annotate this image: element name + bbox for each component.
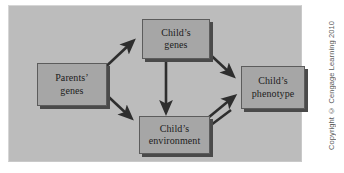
node-childs-genes[interactable]: Child’s genes <box>142 19 210 59</box>
node-parents-genes[interactable]: Parents’ genes <box>37 63 107 106</box>
node-childs-environment-label: Child’s environment <box>147 123 203 148</box>
node-childs-genes-label: Child’s genes <box>159 27 193 52</box>
node-childs-phenotype-label: Child’s phenotype <box>250 75 297 100</box>
node-childs-phenotype[interactable]: Child’s phenotype <box>241 66 305 109</box>
figure-root: Parents’ genes Child’s genes Child’s phe… <box>0 0 344 173</box>
diagram-panel: Parents’ genes Child’s genes Child’s phe… <box>8 5 302 162</box>
copyright-credit: Copyright © Cengage Learning 2010 <box>327 24 340 150</box>
node-childs-environment[interactable]: Child’s environment <box>139 116 210 154</box>
node-parents-genes-label: Parents’ genes <box>53 72 91 97</box>
